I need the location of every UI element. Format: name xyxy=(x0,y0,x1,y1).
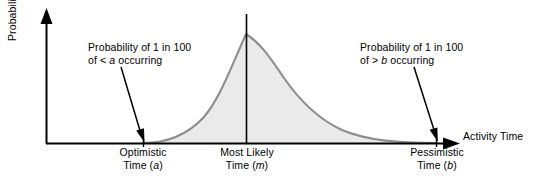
y-axis-arrowhead xyxy=(41,8,53,24)
annotation-optimistic-line2: of < a occurring xyxy=(88,54,191,67)
axis-label-most-likely-symbol: m xyxy=(256,159,265,171)
axis-label-optimistic-line2: Time (a) xyxy=(101,159,185,172)
annotation-optimistic-tail: Probability of 1 in 100 of < a occurring xyxy=(88,41,191,66)
left-annotation-arrowhead xyxy=(136,128,144,142)
pert-distribution-figure: Probability Activity Time Probability of… xyxy=(0,0,535,178)
annotation-optimistic-line2-prefix: of < xyxy=(88,54,109,66)
axis-label-pessimistic-line1: Pessimistic xyxy=(395,146,479,159)
right-annotation-leader-line xyxy=(414,67,435,133)
annotation-pessimistic-tail: Probability of 1 in 100 of > b occurring xyxy=(360,41,463,66)
annotation-pessimistic-line1: Probability of 1 in 100 xyxy=(360,41,463,54)
annotation-optimistic-line2-suffix: occurring xyxy=(115,54,162,66)
axis-label-pessimistic-line2: Time (b) xyxy=(395,159,479,172)
axis-label-most-likely-line1: Most Likely xyxy=(205,146,289,159)
axis-label-optimistic-time: Optimistic Time (a) xyxy=(101,146,185,172)
axis-label-optimistic-line1: Optimistic xyxy=(101,146,185,159)
axis-label-most-likely-time: Most Likely Time (m) xyxy=(205,146,289,172)
axis-label-pessimistic-prefix: Time ( xyxy=(417,159,447,171)
annotation-pessimistic-line2: of > b occurring xyxy=(360,54,463,67)
axis-label-most-likely-prefix: Time ( xyxy=(226,159,256,171)
axis-label-most-likely-line2: Time (m) xyxy=(205,159,289,172)
annotation-pessimistic-line2-prefix: of > xyxy=(360,54,381,66)
axis-label-pessimistic-suffix: ) xyxy=(453,159,457,171)
y-axis-title-text: Probability xyxy=(6,0,18,41)
axis-label-optimistic-prefix: Time ( xyxy=(123,159,153,171)
y-axis-title: Probability xyxy=(6,28,18,41)
x-axis-title: Activity Time xyxy=(463,130,523,142)
annotation-optimistic-line1: Probability of 1 in 100 xyxy=(88,41,191,54)
axis-label-most-likely-suffix: ) xyxy=(265,159,269,171)
left-annotation-leader-line xyxy=(121,67,141,134)
axis-label-optimistic-suffix: ) xyxy=(159,159,163,171)
annotation-pessimistic-line2-suffix: occurring xyxy=(387,54,434,66)
right-annotation-arrowhead xyxy=(430,127,438,141)
axis-label-pessimistic-time: Pessimistic Time (b) xyxy=(395,146,479,172)
